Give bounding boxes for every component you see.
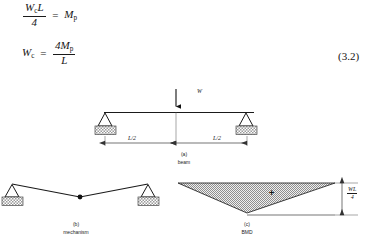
- caption-bmd-name: BMD: [222, 229, 272, 237]
- eq2-W-subscript: c: [31, 52, 34, 60]
- eq2-M-subscript: p: [70, 45, 74, 53]
- equation-collapse-load-moment: WcL 4 = Mp: [22, 2, 77, 29]
- mechanism-support-left-base: [2, 197, 23, 206]
- beam-load-label: W: [197, 88, 202, 94]
- figure-page: WcL 4 = Mp Wc = 4Mp L (3.2): [0, 0, 385, 244]
- caption-mechanism-letter: (b): [46, 221, 106, 229]
- beam-dimension-right-label: L/2: [213, 135, 221, 141]
- mechanism-support-right-triangle: [141, 185, 155, 198]
- equation-1-equals: =: [49, 9, 61, 21]
- eq1-W: W: [25, 1, 34, 13]
- eq1-L: L: [37, 1, 43, 13]
- eq1-Mp-subscript: p: [73, 14, 77, 22]
- caption-bmd: (c) BMD: [222, 221, 272, 236]
- figures-vector-layer: [0, 0, 385, 244]
- figure-beam-diagram: [95, 89, 257, 146]
- eq2-W: W: [22, 46, 31, 58]
- eq2-4M: 4M: [55, 39, 70, 51]
- mechanism-segment-right: [80, 184, 148, 197]
- caption-beam: (a) beam: [164, 151, 204, 166]
- caption-mechanism-name: mechanism: [46, 229, 106, 237]
- beam-support-right-triangle: [239, 113, 253, 126]
- equation-2-denominator: L: [53, 55, 75, 67]
- bmd-moment-value-label: WL 4: [347, 186, 357, 201]
- bmd-moment-denominator: 4: [347, 194, 357, 201]
- mechanism-segment-left: [12, 184, 80, 197]
- beam-support-left-triangle: [98, 113, 112, 126]
- caption-beam-letter: (a): [164, 151, 204, 159]
- bmd-moment-area: [178, 183, 335, 213]
- equation-1-numerator: WcL: [23, 2, 46, 17]
- equation-1-fraction: WcL 4: [23, 2, 46, 29]
- equation-2-equals: =: [37, 47, 49, 59]
- mechanism-plastic-hinge: [78, 195, 83, 200]
- equation-2-numerator: 4Mp: [53, 40, 75, 55]
- equation-number: (3.2): [338, 50, 359, 62]
- mechanism-support-left-triangle: [5, 185, 19, 198]
- equation-1-denominator: 4: [23, 17, 46, 29]
- mechanism-support-right-base: [138, 197, 159, 206]
- bmd-sign-label: +: [269, 189, 274, 198]
- bmd-moment-numerator: WL: [347, 186, 357, 194]
- beam-support-left-base: [95, 126, 116, 135]
- caption-bmd-letter: (c): [222, 221, 272, 229]
- equation-collapse-load: Wc = 4Mp L: [22, 40, 76, 67]
- beam-support-right-base: [236, 126, 257, 135]
- equation-2-fraction: 4Mp L: [53, 40, 75, 67]
- figure-bmd-diagram: [178, 183, 358, 215]
- beam-dimension-left-label: L/2: [128, 135, 136, 141]
- caption-mechanism: (b) mechanism: [46, 221, 106, 236]
- figure-mechanism-diagram: [2, 184, 159, 206]
- caption-beam-name: beam: [164, 159, 204, 167]
